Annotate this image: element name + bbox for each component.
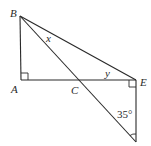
angle-arc-bottom (130, 134, 136, 136)
label-c: C (71, 84, 79, 96)
geometry-diagram: B A C E x y 35° (0, 0, 151, 146)
label-a: A (10, 83, 18, 95)
segment-bd (20, 16, 136, 142)
segment-ba (20, 16, 21, 80)
label-e: E (139, 76, 147, 88)
angle-label-y: y (104, 67, 110, 79)
angle-label-x: x (45, 32, 51, 44)
segment-be (20, 16, 136, 80)
right-angle-marker-a (21, 73, 28, 80)
label-b: B (10, 7, 17, 19)
angle-label-35: 35° (117, 108, 132, 120)
right-angle-marker-e (129, 80, 136, 87)
